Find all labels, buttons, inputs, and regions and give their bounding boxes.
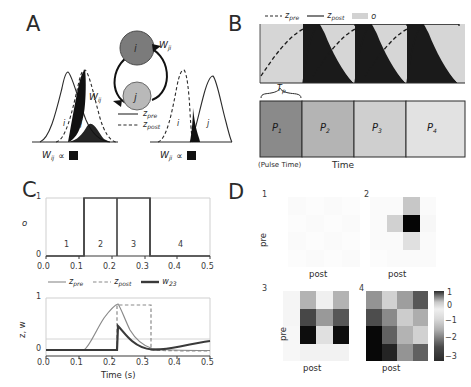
heatmap-cell <box>300 344 317 362</box>
heatmap-cell <box>397 344 413 362</box>
heatmap-cell <box>333 309 350 327</box>
panel-b-time-label: Time <box>332 160 354 170</box>
colorbar-tick-0: 0 <box>447 301 452 310</box>
c-bottom-xtick-2: 0.2 <box>103 358 116 367</box>
trace-label-j-right: j <box>206 119 210 128</box>
panel-c-legend: zpre zpost w23 <box>48 277 177 287</box>
heatmap-cell <box>324 250 342 268</box>
heatmap-matrix-1 <box>288 197 360 267</box>
matrix-2-xlabel: post <box>388 269 406 279</box>
caption-wji: Wji ∝ <box>160 150 196 161</box>
c-legend-zpost: zpost <box>93 277 131 287</box>
heatmap-cell <box>306 250 324 268</box>
heatmap-cell <box>306 232 324 250</box>
pulse-label-p4: P4 <box>427 122 437 134</box>
matrix-3-ylabel: pre <box>278 327 288 341</box>
panel-a-graphic: i j i j i j <box>0 0 235 180</box>
heatmap-cell <box>420 250 437 268</box>
legend-item-zpre: zpre <box>118 108 160 119</box>
heatmap-cell <box>333 291 350 309</box>
swatch-black-left <box>69 151 78 160</box>
panel-b-traces <box>260 24 465 83</box>
heatmap-cell <box>397 291 413 309</box>
heatmap-cell <box>382 309 398 327</box>
heatmap-matrix-2 <box>370 197 436 267</box>
panel-a-legend: zpre zpost <box>118 108 160 130</box>
colorbar-tick-neg2: −2 <box>445 333 457 342</box>
c-top-xtick-4: 0.4 <box>168 262 181 271</box>
heatmap-cell <box>420 215 437 233</box>
heatmap-cell <box>387 232 404 250</box>
c-pulse-number-2: 2 <box>98 240 103 249</box>
heatmap-cell <box>306 197 324 215</box>
heatmap-cell <box>403 215 420 233</box>
c-bottom-ytick-0: 0 <box>36 344 41 353</box>
panel-b-graphic <box>225 0 471 185</box>
matrix-index-4: 4 <box>359 284 364 293</box>
trace-label-i-right: i <box>177 119 180 128</box>
colorbar-tick-neg3: −3 <box>445 352 457 361</box>
pulse-label-p1: P1 <box>272 122 282 134</box>
swatch-black-right <box>187 151 196 160</box>
heatmap-cell <box>324 232 342 250</box>
c-top-ylabel: o <box>22 218 27 228</box>
panel-a-right-traces: i j <box>150 70 232 142</box>
c-top-xtick-3: 0.3 <box>136 262 149 271</box>
heatmap-cell <box>397 309 413 327</box>
heatmap-cell <box>316 344 333 362</box>
colorbar-tick-1: 1 <box>447 288 452 297</box>
colorbar <box>434 291 444 361</box>
c-pulse-number-1: 1 <box>64 240 69 249</box>
heatmap-cell <box>283 291 300 309</box>
matrix-index-2: 2 <box>364 190 369 199</box>
heatmap-cell <box>382 326 398 344</box>
c-bottom-xtick-1: 0.1 <box>70 358 83 367</box>
figure-root: A i j i j <box>0 0 471 387</box>
matrix-1-ylabel: pre <box>258 233 268 247</box>
heatmap-cell <box>342 250 360 268</box>
heatmap-cell <box>342 232 360 250</box>
heatmap-cell <box>403 250 420 268</box>
heatmap-cell <box>387 197 404 215</box>
heatmap-cell <box>300 326 317 344</box>
heatmap-cell <box>382 291 398 309</box>
heatmap-matrix-4 <box>366 291 428 361</box>
heatmap-cell <box>316 326 333 344</box>
node-label-i: i <box>134 43 137 54</box>
heatmap-cell <box>370 232 387 250</box>
heatmap-cell <box>342 197 360 215</box>
edge-label-wij: Wij <box>89 92 101 103</box>
heatmap-cell <box>370 197 387 215</box>
heatmap-cell <box>300 309 317 327</box>
panel-c-top-plot <box>0 188 230 270</box>
heatmap-cell <box>403 197 420 215</box>
heatmap-cell <box>306 215 324 233</box>
heatmap-cell <box>387 250 404 268</box>
heatmap-cell <box>387 215 404 233</box>
heatmap-cell <box>288 232 306 250</box>
heatmap-cell <box>342 215 360 233</box>
c-pulse-number-4: 4 <box>178 240 183 249</box>
c-top-xtick-1: 0.1 <box>70 262 83 271</box>
heatmap-cell <box>420 232 437 250</box>
heatmap-cell <box>397 326 413 344</box>
colorbar-tick-neg1: −1 <box>445 316 457 325</box>
heatmap-cell <box>413 309 429 327</box>
c-top-xtick-5: 0.5 <box>201 262 214 271</box>
pulse-label-p2: P2 <box>320 122 330 134</box>
heatmap-cell <box>316 309 333 327</box>
heatmap-cell <box>324 197 342 215</box>
heatmap-cell <box>413 326 429 344</box>
panel-a-left-traces: i j <box>32 70 118 142</box>
c-pulse-number-3: 3 <box>131 240 136 249</box>
panel-b-pulse-time-label: (Pulse Time) <box>258 161 301 169</box>
c-top-ytick-0: 0 <box>36 250 41 259</box>
legend-item-zpost: zpost <box>118 119 160 130</box>
c-legend-w23: w23 <box>141 277 176 287</box>
heatmap-cell <box>413 344 429 362</box>
matrix-3-xlabel: post <box>303 363 321 373</box>
c-bottom-ylabel: z, w <box>17 321 27 338</box>
c-bottom-ytick-1: 1 <box>36 292 41 301</box>
caption-wij: Wij ∝ <box>42 150 78 161</box>
heatmap-cell <box>382 344 398 362</box>
